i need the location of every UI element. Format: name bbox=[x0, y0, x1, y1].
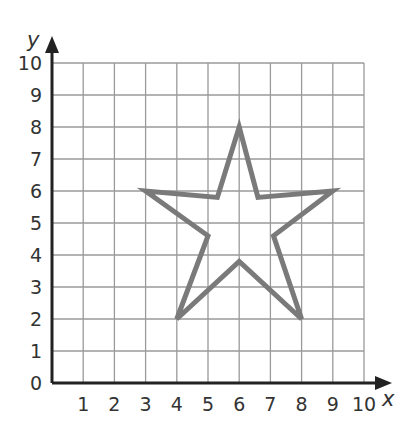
y-tick-label: 7 bbox=[30, 148, 42, 170]
y-tick-label: 4 bbox=[30, 244, 42, 266]
x-tick-label: 1 bbox=[77, 393, 89, 415]
y-tick-label: 10 bbox=[18, 52, 42, 74]
x-tick-labels: 12345678910 bbox=[77, 393, 376, 415]
x-tick-label: 7 bbox=[264, 393, 276, 415]
x-tick-label: 2 bbox=[108, 393, 120, 415]
x-tick-label: 6 bbox=[233, 393, 245, 415]
axes bbox=[45, 36, 392, 390]
x-tick-label: 4 bbox=[171, 393, 183, 415]
y-tick-label: 1 bbox=[30, 340, 42, 362]
y-tick-label: 8 bbox=[30, 116, 42, 138]
coordinate-grid: 12345678910 012345678910 x y bbox=[0, 0, 420, 435]
y-tick-label: 2 bbox=[30, 308, 42, 330]
y-tick-label: 0 bbox=[30, 372, 42, 394]
x-tick-label: 9 bbox=[327, 393, 339, 415]
y-axis-label: y bbox=[26, 28, 40, 52]
y-tick-label: 6 bbox=[30, 180, 42, 202]
x-tick-label: 5 bbox=[202, 393, 214, 415]
y-tick-label: 3 bbox=[30, 276, 42, 298]
x-tick-label: 3 bbox=[140, 393, 152, 415]
y-axis-arrow-icon bbox=[45, 36, 59, 53]
x-tick-label: 8 bbox=[296, 393, 308, 415]
y-tick-label: 5 bbox=[30, 212, 42, 234]
y-tick-label: 9 bbox=[30, 84, 42, 106]
y-tick-labels: 012345678910 bbox=[18, 52, 42, 394]
grid-lines bbox=[52, 63, 364, 383]
x-axis-label: x bbox=[381, 387, 395, 411]
x-tick-label: 10 bbox=[352, 393, 376, 415]
